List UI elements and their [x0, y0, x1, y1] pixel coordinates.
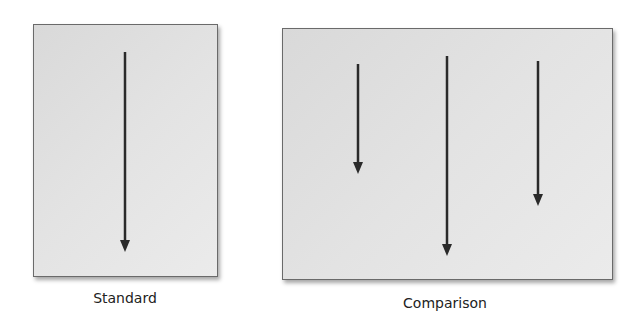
- standard-label: Standard: [45, 290, 205, 306]
- down-arrow-icon: [120, 52, 130, 252]
- arrows-layer: [0, 0, 638, 330]
- comparison-label: Comparison: [365, 295, 525, 311]
- down-arrow-icon: [353, 64, 363, 174]
- down-arrow-icon: [533, 61, 543, 206]
- down-arrow-icon: [442, 56, 452, 256]
